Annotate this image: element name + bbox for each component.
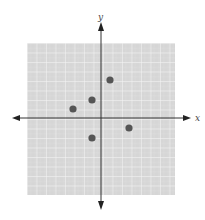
y-axis-down-arrow-icon (98, 201, 104, 210)
x-axis-right-arrow-icon (183, 115, 191, 121)
data-point (125, 124, 132, 131)
x-axis-left-arrow-icon (12, 115, 20, 121)
data-point (88, 134, 95, 141)
y-axis-up-arrow-icon (98, 22, 104, 31)
coordinate-plane: x y (0, 0, 205, 220)
data-point (106, 76, 113, 83)
data-point (88, 96, 95, 103)
x-axis-label: x (195, 113, 200, 123)
y-axis-label: y (97, 12, 104, 22)
data-point (69, 105, 76, 112)
